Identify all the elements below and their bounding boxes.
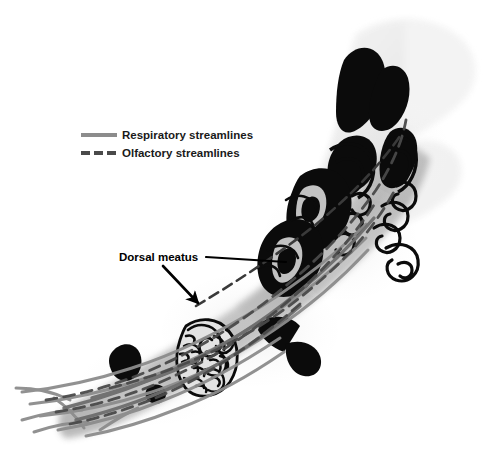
nasal-cavity-figure: Respiratory streamlines Olfactory stream… xyxy=(0,0,490,450)
dorsal-meatus-label: Dorsal meatus xyxy=(119,251,198,263)
figure-root: Respiratory streamlines Olfactory stream… xyxy=(0,0,490,450)
legend-label-olfactory: Olfactory streamlines xyxy=(122,147,240,159)
legend-label-respiratory: Respiratory streamlines xyxy=(122,129,253,141)
